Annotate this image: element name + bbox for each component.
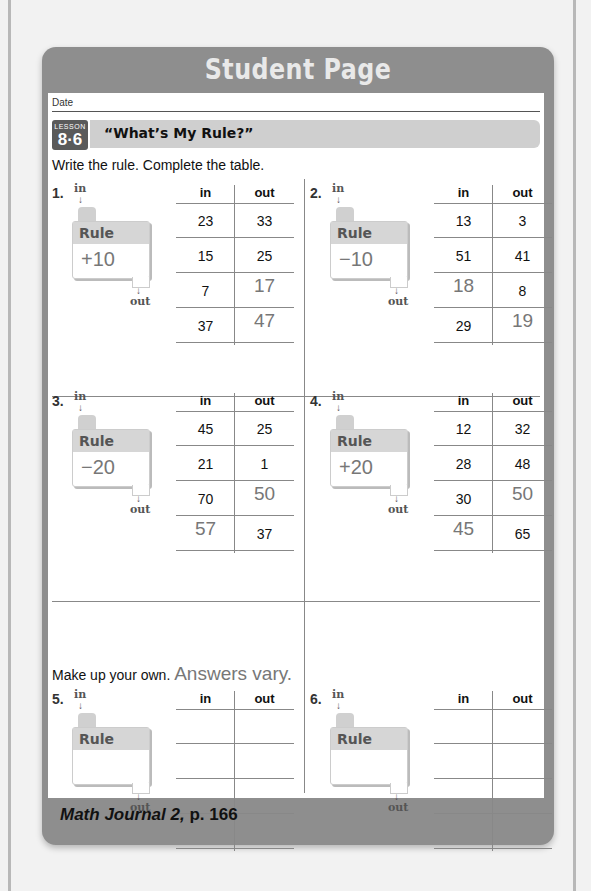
- cell-in[interactable]: 18: [434, 275, 493, 297]
- cell-in[interactable]: 12: [434, 421, 493, 437]
- machine-output-notch: [390, 485, 408, 496]
- problem-1: 1. in ↓ Rule +10 ↓ out in out 23 33 15 2…: [52, 185, 292, 375]
- rule-label: Rule: [73, 728, 149, 750]
- row-line: [434, 307, 552, 308]
- cell-in[interactable]: 70: [176, 491, 235, 507]
- cell-in[interactable]: 37: [176, 318, 235, 334]
- cell-in[interactable]: 57: [176, 518, 235, 540]
- row-line: [176, 515, 294, 516]
- rule-machine: Rule −20: [72, 429, 150, 487]
- cell-out[interactable]: 3: [493, 213, 552, 229]
- column-header-out: out: [235, 185, 294, 200]
- rule-label: Rule: [331, 728, 407, 750]
- column-header-out: out: [493, 185, 552, 200]
- machine-input-notch: [78, 207, 96, 221]
- machine-out-label: out: [130, 503, 150, 516]
- cell-out[interactable]: 65: [493, 526, 552, 542]
- cell-out[interactable]: 17: [235, 275, 294, 297]
- rule-machine: Rule: [72, 727, 150, 785]
- cell-in[interactable]: 30: [434, 491, 493, 507]
- rule-label: Rule: [73, 430, 149, 452]
- date-label: Date: [52, 97, 73, 108]
- page-title: Student Page: [80, 47, 515, 93]
- machine-output-notch: [390, 277, 408, 288]
- cell-in[interactable]: 51: [434, 248, 493, 264]
- student-page-card: Student Page Date LESSON 8·6 “What’s My …: [42, 47, 554, 845]
- column-header-out: out: [235, 393, 294, 408]
- cell-out[interactable]: 25: [235, 421, 294, 437]
- row-line: [434, 445, 552, 446]
- cell-in[interactable]: 28: [434, 456, 493, 472]
- problem-2: 2. in ↓ Rule −10 ↓ out in out 13 3 51 41…: [310, 185, 550, 375]
- machine-input-notch: [336, 415, 354, 429]
- machine-input-notch: [336, 207, 354, 221]
- make-your-own: Make up your own. Answers vary.: [52, 663, 292, 685]
- problem-number: 4.: [310, 393, 322, 409]
- rule-machine: Rule +20: [330, 429, 408, 487]
- machine-out-label: out: [388, 801, 408, 814]
- divider-horizontal: [52, 601, 540, 602]
- instructions: Write the rule. Complete the table.: [52, 157, 264, 173]
- cell-out[interactable]: 32: [493, 421, 552, 437]
- column-divider: [234, 691, 235, 851]
- cell-out[interactable]: 19: [493, 310, 552, 332]
- cell-in[interactable]: 15: [176, 248, 235, 264]
- header-line: [176, 411, 294, 412]
- column-header-in: in: [176, 691, 235, 706]
- row-line: [434, 272, 552, 273]
- row-line: [176, 848, 294, 849]
- cell-out[interactable]: 25: [235, 248, 294, 264]
- problem-number: 1.: [52, 185, 64, 201]
- cell-out[interactable]: 48: [493, 456, 552, 472]
- row-line: [434, 237, 552, 238]
- row-line: [176, 778, 294, 779]
- header-line: [434, 203, 552, 204]
- cell-in[interactable]: 45: [434, 518, 493, 540]
- rule-label: Rule: [331, 430, 407, 452]
- cell-in[interactable]: 29: [434, 318, 493, 334]
- problem-number: 3.: [52, 393, 64, 409]
- rule-value[interactable]: +20: [331, 452, 407, 482]
- rule-value[interactable]: −10: [331, 244, 407, 274]
- rule-label: Rule: [331, 222, 407, 244]
- row-line: [176, 550, 294, 551]
- column-header-in: in: [434, 691, 493, 706]
- row-line: [434, 550, 552, 551]
- book-title: Math Journal 2,: [60, 805, 185, 824]
- cell-out[interactable]: 37: [235, 526, 294, 542]
- row-line: [176, 237, 294, 238]
- page-ref: p. 166: [189, 805, 237, 824]
- arrow-down-icon: ↓: [78, 194, 83, 205]
- row-line: [176, 342, 294, 343]
- column-header-out: out: [493, 393, 552, 408]
- cell-out[interactable]: 8: [493, 283, 552, 299]
- cell-in[interactable]: 21: [176, 456, 235, 472]
- row-line: [434, 848, 552, 849]
- rule-value[interactable]: +10: [73, 244, 149, 274]
- rule-machine: Rule: [330, 727, 408, 785]
- lesson-number: 8·6: [52, 131, 88, 149]
- column-header-in: in: [434, 393, 493, 408]
- cell-in[interactable]: 23: [176, 213, 235, 229]
- cell-out[interactable]: 47: [235, 310, 294, 332]
- cell-out[interactable]: 50: [235, 483, 294, 505]
- cell-out[interactable]: 1: [235, 456, 294, 472]
- cell-in[interactable]: 13: [434, 213, 493, 229]
- column-header-in: in: [434, 185, 493, 200]
- cell-out[interactable]: 41: [493, 248, 552, 264]
- rule-value[interactable]: −20: [73, 452, 149, 482]
- row-line: [176, 307, 294, 308]
- problem-number: 5.: [52, 691, 64, 707]
- machine-out-label: out: [388, 503, 408, 516]
- row-line: [434, 480, 552, 481]
- cell-out[interactable]: 33: [235, 213, 294, 229]
- lesson-title-bar: “What’s My Rule?”: [90, 120, 540, 148]
- cell-out[interactable]: 50: [493, 483, 552, 505]
- problem-4: 4. in ↓ Rule +20 ↓ out in out 12 32 28 4…: [310, 393, 550, 583]
- cell-in[interactable]: 45: [176, 421, 235, 437]
- cell-in[interactable]: 7: [176, 283, 235, 299]
- row-line: [176, 272, 294, 273]
- machine-output-notch: [132, 485, 150, 496]
- column-header-out: out: [235, 691, 294, 706]
- row-line: [434, 342, 552, 343]
